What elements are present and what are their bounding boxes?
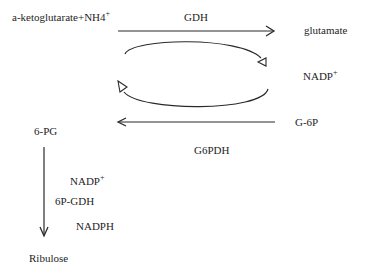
g6pdh-arrow bbox=[118, 118, 275, 126]
cycle-lower-arc bbox=[118, 81, 268, 107]
cycle-upper-arc bbox=[125, 42, 266, 66]
6pgdh-arrow bbox=[40, 147, 48, 236]
gdh-arrow bbox=[118, 26, 274, 36]
pathway-arrows bbox=[0, 0, 367, 275]
